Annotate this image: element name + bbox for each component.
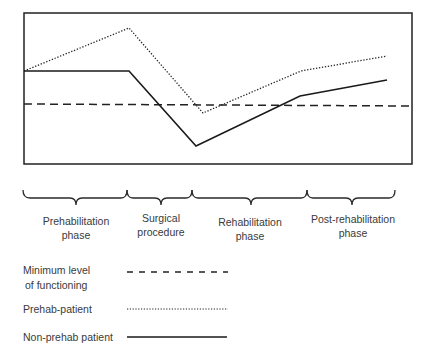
phase-label-line1: Post-rehabilitation	[298, 212, 408, 226]
plot-frame	[24, 13, 412, 164]
phase-label-line1: Surgical	[121, 211, 201, 225]
legend-label-line1: Prehab-patient	[23, 302, 92, 317]
phase-label-line2: phase	[26, 228, 126, 242]
brace-prehabilitation	[23, 190, 127, 205]
brace-surgical	[127, 190, 192, 205]
phase-label-prehabilitation: Prehabilitation phase	[26, 214, 126, 242]
phase-label-post-rehabilitation: Post-rehabilitation phase	[298, 212, 408, 240]
phase-label-rehabilitation: Rehabilitation phase	[200, 215, 300, 243]
phase-label-line1: Prehabilitation	[26, 214, 126, 228]
brace-post-rehabilitation	[307, 190, 395, 205]
legend-label-non-prehab-patient: Non-prehab patient	[23, 330, 113, 345]
phase-label-line2: phase	[200, 229, 300, 243]
non-prehab-patient-line	[24, 71, 387, 146]
phase-label-line2: phase	[298, 226, 408, 240]
phase-label-line1: Rehabilitation	[200, 215, 300, 229]
legend-label-minimum-level: Minimum level of functioning	[23, 263, 90, 293]
brace-rehabilitation	[192, 190, 307, 205]
legend-label-line1: Non-prehab patient	[23, 330, 113, 345]
phase-label-line2: procedure	[121, 225, 201, 239]
legend-label-prehab-patient: Prehab-patient	[23, 302, 92, 317]
legend-label-line2: of functioning	[23, 278, 90, 293]
legend-label-line1: Minimum level	[23, 263, 90, 278]
phase-label-surgical: Surgical procedure	[121, 211, 201, 239]
phase-braces	[23, 190, 395, 205]
minimum-level-line	[24, 104, 412, 106]
